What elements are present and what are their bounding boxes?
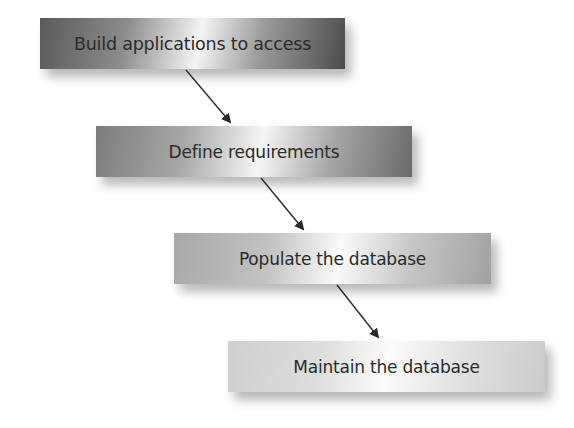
arrow-down-right-icon xyxy=(337,285,378,337)
step-populate-database: Populate the database xyxy=(174,233,491,284)
process-diagram: Build applications to access Define requ… xyxy=(0,0,574,428)
step-define-requirements: Define requirements xyxy=(96,126,412,177)
arrow-down-right-icon xyxy=(186,70,230,122)
step-label: Maintain the database xyxy=(293,357,480,377)
step-label: Build applications to access xyxy=(74,34,311,54)
step-maintain-database: Maintain the database xyxy=(228,341,545,392)
step-label: Populate the database xyxy=(239,249,426,269)
arrow-down-right-icon xyxy=(261,178,303,229)
step-build-applications: Build applications to access xyxy=(40,18,345,69)
step-label: Define requirements xyxy=(169,142,340,162)
